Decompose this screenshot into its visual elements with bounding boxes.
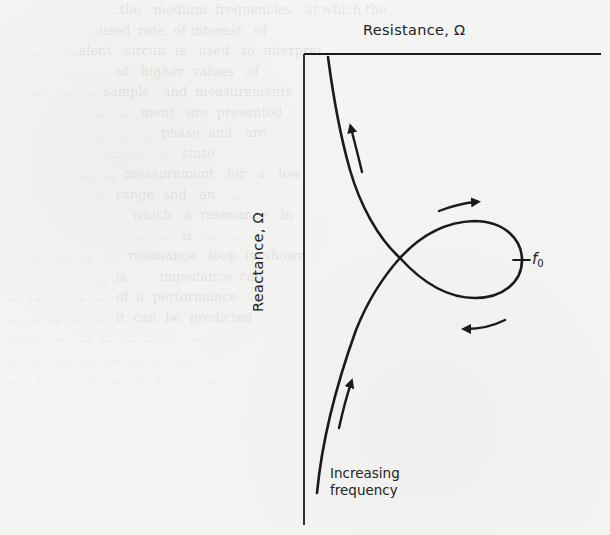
resonance-subscript: 0 (537, 258, 543, 269)
axes (304, 54, 601, 525)
impedance-locus-diagram (0, 0, 610, 535)
locus-curve (317, 57, 530, 493)
y-axis-title: Reactance, Ω (250, 212, 266, 312)
locus-loop (400, 221, 522, 298)
arrow-lower-branch-icon (339, 383, 351, 428)
arrow-loop-bottom-icon (466, 320, 505, 329)
x-axis-title: Resistance, Ω (363, 22, 465, 38)
arrow-loop-top-icon (439, 202, 476, 211)
increasing-frequency-annotation: Increasing frequency (330, 465, 400, 499)
resonance-frequency-label: f0 (532, 250, 544, 269)
locus-upper-branch (328, 57, 400, 258)
arrow-upper-branch-icon (351, 128, 362, 172)
scanned-page: ...the medium frequencies at which the .… (0, 0, 610, 535)
locus-lower-branch (317, 258, 400, 493)
